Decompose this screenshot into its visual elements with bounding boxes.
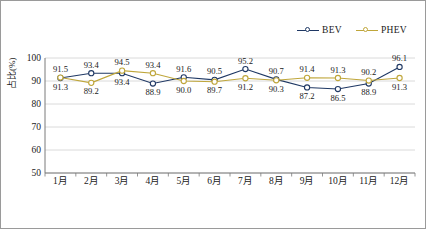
y-tick-label: 90	[15, 76, 41, 86]
data-label: 91.4	[300, 64, 315, 74]
x-tick-label: 3月	[115, 173, 130, 187]
data-label: 91.6	[176, 64, 191, 74]
data-label: 91.2	[238, 82, 253, 92]
x-tick-label: 6月	[207, 173, 222, 187]
chart-svg	[1, 1, 426, 229]
y-axis-ticks: 1009080706050	[15, 1, 41, 229]
data-label: 88.9	[361, 87, 376, 97]
x-tick-label: 9月	[300, 173, 315, 187]
data-label: 90.5	[207, 66, 222, 76]
chart-container: BEV PHEV 占比(%) 1009080706050 1月2月3月4月5月6…	[0, 0, 426, 229]
x-tick-label: 8月	[269, 173, 284, 187]
data-label: 96.1	[392, 53, 407, 63]
data-label: 93.4	[84, 60, 99, 70]
x-tick-label: 10月	[328, 173, 348, 187]
x-tick-label: 2月	[84, 173, 99, 187]
data-label: 93.4	[145, 60, 160, 70]
data-label: 90.0	[176, 85, 191, 95]
data-label: 93.4	[115, 77, 130, 87]
data-label: 90.7	[269, 66, 284, 76]
y-tick-label: 80	[15, 99, 41, 109]
data-label: 91.3	[330, 65, 345, 75]
data-label: 95.2	[238, 56, 253, 66]
y-tick-label: 60	[15, 145, 41, 155]
data-label: 88.9	[145, 87, 160, 97]
x-tick-label: 1月	[53, 173, 68, 187]
plot-area: 1009080706050 1月2月3月4月5月6月7月8月9月10月11月12…	[1, 1, 426, 229]
data-label: 86.5	[330, 93, 345, 103]
y-tick-label: 100	[15, 53, 41, 63]
y-tick-label: 70	[15, 122, 41, 132]
data-label: 89.7	[207, 85, 222, 95]
x-tick-label: 12月	[390, 173, 410, 187]
x-tick-label: 4月	[146, 173, 161, 187]
data-label: 90.2	[361, 67, 376, 77]
x-tick-label: 7月	[238, 173, 253, 187]
data-label: 91.5	[53, 64, 68, 74]
data-label: 91.3	[392, 82, 407, 92]
x-tick-label: 5月	[176, 173, 191, 187]
x-axis-ticks: 1月2月3月4月5月6月7月8月9月10月11月12月	[1, 173, 426, 189]
data-label: 91.3	[53, 82, 68, 92]
data-label: 87.2	[300, 91, 315, 101]
data-label: 94.5	[115, 57, 130, 67]
data-label: 90.3	[269, 84, 284, 94]
data-label: 89.2	[84, 86, 99, 96]
x-tick-label: 11月	[359, 173, 378, 187]
